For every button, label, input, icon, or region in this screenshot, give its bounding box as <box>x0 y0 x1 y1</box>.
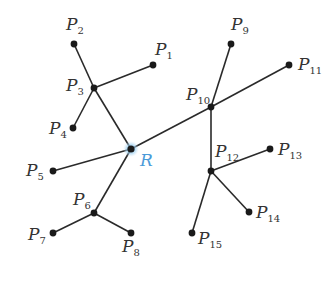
label-p14: P14 <box>255 202 280 224</box>
label-p1: P1 <box>154 39 173 61</box>
node-p7 <box>50 230 57 237</box>
label-p8: P8 <box>121 236 140 258</box>
label-p11: P11 <box>297 54 322 76</box>
label-p9: P9 <box>230 14 249 36</box>
node-p15 <box>189 230 196 237</box>
label-p10: P10 <box>185 84 210 106</box>
node-p13 <box>267 146 274 153</box>
node-p12 <box>208 168 215 175</box>
node-p1 <box>150 62 157 69</box>
node-p2 <box>71 41 78 48</box>
node-p5 <box>50 168 57 175</box>
node-p4 <box>70 125 77 132</box>
label-p3: P3 <box>65 75 84 97</box>
label-p5: P5 <box>25 160 44 182</box>
root-label: R <box>139 150 153 170</box>
label-p2: P2 <box>65 14 84 36</box>
label-p7: P7 <box>27 224 46 246</box>
edge-p3-p1 <box>94 65 153 88</box>
edge-p6-p8 <box>94 213 131 233</box>
root-node: R <box>123 141 153 170</box>
node-p6 <box>91 210 98 217</box>
node-p14 <box>246 209 253 216</box>
node-p3 <box>91 85 98 92</box>
labels-layer: P1P2P3P4P5P6P7P8P9P10P11P12P13P14P15 <box>25 14 322 258</box>
tree-diagram: R P1P2P3P4P5P6P7P8P9P10P11P12P13P14P15 <box>0 0 336 282</box>
label-p4: P4 <box>48 118 67 140</box>
label-p12: P12 <box>214 141 239 163</box>
node-p11 <box>286 62 293 69</box>
edge-r-p3 <box>94 88 131 149</box>
root-point <box>127 145 134 152</box>
label-p15: P15 <box>197 228 222 250</box>
edge-p12-p14 <box>211 171 249 212</box>
edge-p6-p7 <box>53 213 94 233</box>
node-p9 <box>228 41 235 48</box>
edge-r-p10 <box>131 107 211 149</box>
label-p13: P13 <box>277 139 302 161</box>
edge-p12-p15 <box>192 171 211 233</box>
label-p6: P6 <box>72 189 91 211</box>
